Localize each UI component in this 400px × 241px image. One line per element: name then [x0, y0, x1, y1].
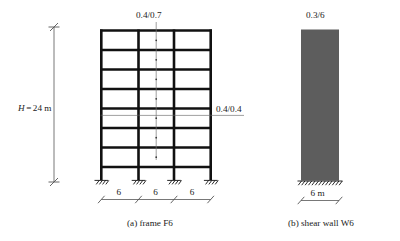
frame-caption: (a) frame F6 — [127, 218, 173, 228]
height-value: 24 m — [33, 103, 52, 113]
column-section-leader — [100, 115, 244, 117]
height-equals: = — [26, 103, 31, 113]
svg-text:H=24 m: H=24 m — [17, 103, 51, 113]
wall-caption: (b) shear wall W6 — [288, 218, 354, 228]
structural-figure: H=24 m 0.4/0.7 0.4/0.4 6 6 6 (a) frame F… — [0, 0, 400, 241]
beam-section-label: 0.4/0.7 — [136, 10, 162, 20]
column-section-label: 0.4/0.4 — [216, 104, 242, 114]
wall-section-label: 0.3/6 — [306, 10, 325, 20]
wall-support-fixed — [298, 181, 343, 185]
height-label-group: H=24 m — [17, 103, 51, 113]
support-fixed-1 — [95, 180, 109, 184]
support-fixed-3 — [167, 180, 181, 184]
shear-wall-w6 — [298, 30, 343, 205]
bay-dim-3: 6 — [190, 187, 195, 197]
figure-canvas: H=24 m 0.4/0.7 0.4/0.4 6 6 6 (a) frame F… — [0, 0, 400, 241]
bay-dim-2: 6 — [153, 187, 158, 197]
bay-dim-1: 6 — [117, 187, 122, 197]
support-fixed-2 — [132, 180, 146, 184]
wall-width-label: 6 m — [311, 188, 325, 198]
frame-supports — [95, 180, 219, 184]
height-symbol: H — [17, 103, 26, 113]
support-fixed-4 — [204, 180, 218, 184]
wall-body — [301, 30, 339, 181]
beam-section-leader — [155, 22, 157, 160]
